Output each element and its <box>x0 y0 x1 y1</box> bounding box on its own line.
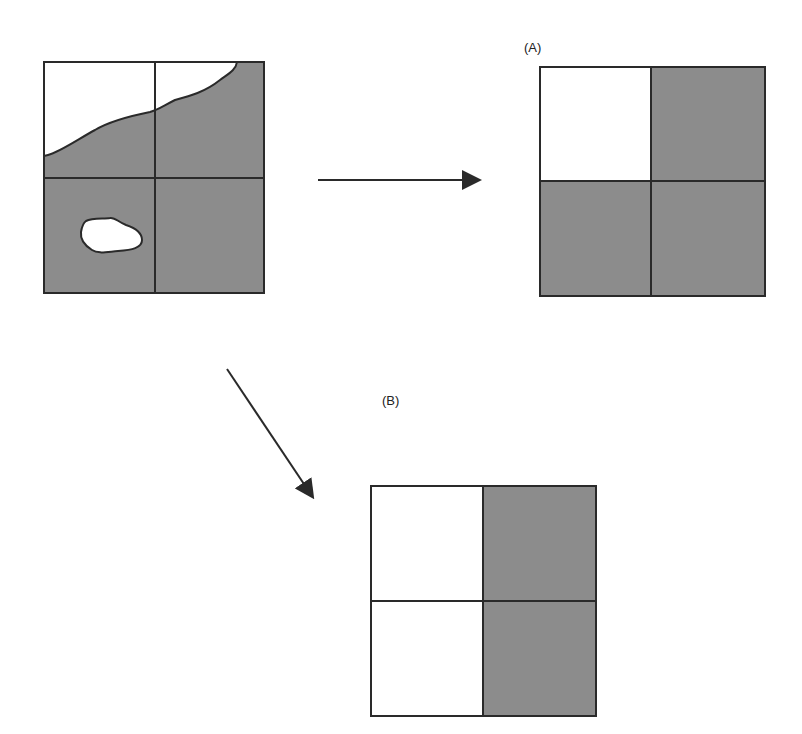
cell-a-1-1 <box>651 181 765 296</box>
cell-a-1-0 <box>540 181 651 296</box>
result-grid-a <box>540 67 765 296</box>
source-grid <box>44 62 264 293</box>
cell-b-1-0 <box>371 601 483 716</box>
result-grid-b <box>371 486 596 716</box>
cell-b-1-1 <box>483 601 596 716</box>
cell-a-0-0 <box>540 67 651 181</box>
cell-b-0-0 <box>371 486 483 601</box>
cell-b-0-1 <box>483 486 596 601</box>
label-b: (B) <box>382 393 399 408</box>
arrow-to-b <box>227 369 312 496</box>
label-a: (A) <box>524 40 541 55</box>
cell-a-0-1 <box>651 67 765 181</box>
raster-diagram <box>0 0 802 734</box>
